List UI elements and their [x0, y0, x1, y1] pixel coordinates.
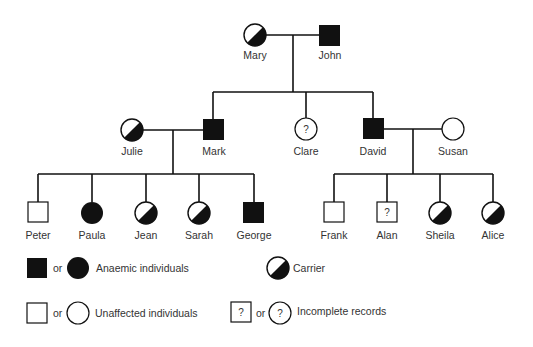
label-susan: Susan: [438, 145, 468, 157]
legend-or: or: [53, 262, 62, 274]
label-sheila: Sheila: [425, 229, 454, 241]
legend-incomplete-circle-icon: ?: [269, 302, 291, 324]
node-jean: [135, 202, 157, 224]
node-mary: [244, 24, 266, 46]
node-mark: [203, 119, 224, 140]
legend-unaffected-label: Unaffected individuals: [95, 307, 198, 319]
node-sarah: [188, 202, 210, 224]
svg-text:?: ?: [238, 307, 244, 318]
node-david: [363, 118, 384, 139]
legend-or: or: [256, 307, 265, 319]
legend-incomplete-square-icon: ?: [231, 302, 251, 322]
label-david: David: [360, 145, 387, 157]
node-john: [319, 25, 340, 46]
question-mark-icon: ?: [303, 124, 309, 135]
node-clare: ?: [295, 118, 317, 140]
node-paula: [81, 202, 103, 224]
label-alice: Alice: [482, 229, 505, 241]
label-paula: Paula: [79, 229, 106, 241]
node-julie: [121, 119, 143, 141]
node-frank: [324, 202, 344, 222]
node-alice: [482, 202, 504, 224]
legend-or: or: [53, 307, 62, 319]
svg-text:?: ?: [277, 308, 283, 319]
label-john: John: [319, 49, 342, 61]
label-julie: Julie: [121, 145, 143, 157]
legend-unaffected-circle-icon: [67, 302, 89, 324]
legend-unaffected-square-icon: [27, 303, 47, 323]
legend-anaemic-square-icon: [27, 258, 47, 278]
legend-incomplete-label: Incomplete records: [297, 305, 386, 317]
node-alan: ?: [377, 202, 397, 222]
node-peter: [28, 202, 48, 222]
label-frank: Frank: [321, 229, 348, 241]
label-jean: Jean: [135, 229, 158, 241]
label-mark: Mark: [202, 145, 225, 157]
legend-carrier-label: Carrier: [293, 262, 325, 274]
node-george: [243, 202, 264, 223]
label-george: George: [236, 229, 271, 241]
label-mary: Mary: [243, 49, 266, 61]
legend-carrier-icon: [267, 257, 289, 279]
question-mark-icon: ?: [384, 207, 390, 218]
label-peter: Peter: [25, 229, 50, 241]
node-susan: [442, 118, 464, 140]
label-alan: Alan: [376, 229, 397, 241]
label-sarah: Sarah: [185, 229, 213, 241]
label-clare: Clare: [293, 145, 318, 157]
legend-anaemic-label: Anaemic individuals: [96, 262, 189, 274]
legend-anaemic-circle-icon: [67, 257, 89, 279]
node-sheila: [429, 202, 451, 224]
